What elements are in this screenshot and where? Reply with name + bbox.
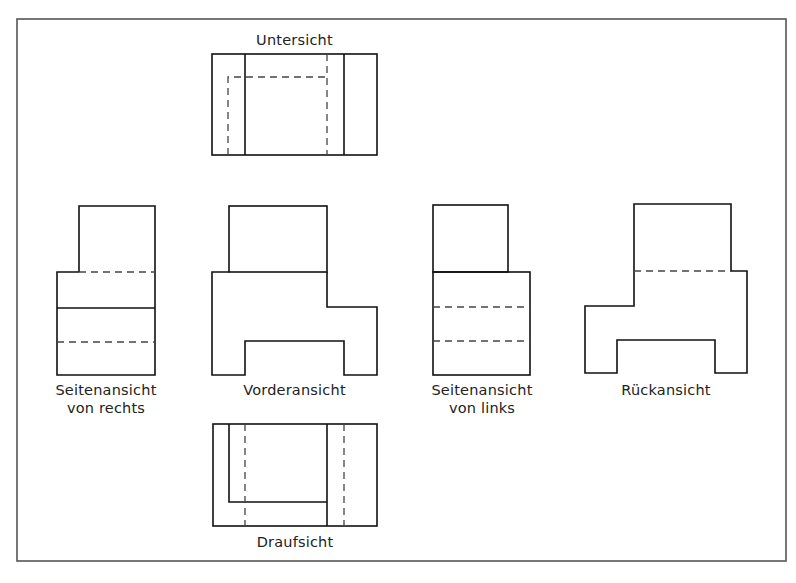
label-seitenansicht-rechts: Seitenansicht von rechts	[36, 381, 176, 417]
view-untersicht	[212, 54, 377, 155]
drawing-canvas	[0, 0, 796, 583]
view-vorderansicht	[212, 206, 377, 375]
view-seitenansicht-links	[433, 205, 530, 375]
label-line-2: von rechts	[36, 399, 176, 417]
view-rueckansicht	[585, 204, 747, 373]
drawing-frame	[17, 19, 786, 561]
view-draufsicht	[213, 424, 377, 526]
label-draufsicht: Draufsicht	[213, 533, 377, 551]
label-vorderansicht: Vorderansicht	[212, 381, 377, 399]
label-seitenansicht-links: Seitenansicht von links	[412, 381, 552, 417]
view-seitenansicht-rechts	[57, 206, 155, 375]
label-rueckansicht: Rückansicht	[585, 381, 747, 399]
label-line-1: Seitenansicht	[36, 381, 176, 399]
label-line-2: von links	[412, 399, 552, 417]
label-untersicht: Untersicht	[212, 31, 377, 49]
label-line-1: Seitenansicht	[412, 381, 552, 399]
